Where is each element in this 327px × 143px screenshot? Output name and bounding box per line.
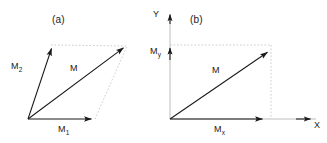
panel-a-tag: (a): [52, 15, 65, 25]
label-my-base: M: [150, 46, 158, 56]
vector-m2-panel-a: [28, 49, 52, 120]
figure-canvas: [0, 0, 327, 143]
label-m1-base: M: [58, 124, 66, 134]
panel-b-tag: (b): [190, 15, 203, 25]
panel-a-guide-lines: [51, 45, 127, 119]
panel-b-graphics: [170, 15, 316, 120]
label-mx-subscript: x: [222, 129, 225, 136]
label-my-subscript: y: [158, 51, 161, 58]
label-m-panel-a: M: [70, 64, 78, 73]
label-my-panel-b: My: [150, 47, 161, 58]
vector-m-panel-b: [170, 52, 268, 119]
guide-top-edge: [51, 45, 127, 46]
label-m2-panel-a: M2: [11, 62, 23, 73]
label-y-axis: Y: [153, 10, 159, 19]
label-m2-base: M: [11, 61, 19, 71]
label-mx-panel-b: Mx: [214, 125, 225, 136]
label-m-panel-b: M: [212, 66, 220, 75]
label-m1-subscript: 1: [66, 129, 70, 136]
vector-addition-figure: (a) M2 M M1 (b) Y X My M Mx: [0, 0, 327, 143]
vector-m-panel-a: [28, 48, 124, 119]
panel-a-graphics: [28, 45, 127, 119]
label-m1-panel-a: M1: [58, 125, 70, 136]
label-mx-base: M: [214, 124, 222, 134]
label-m2-subscript: 2: [19, 66, 23, 73]
label-x-axis: X: [314, 121, 320, 130]
panel-b-guide-lines: [170, 45, 271, 119]
